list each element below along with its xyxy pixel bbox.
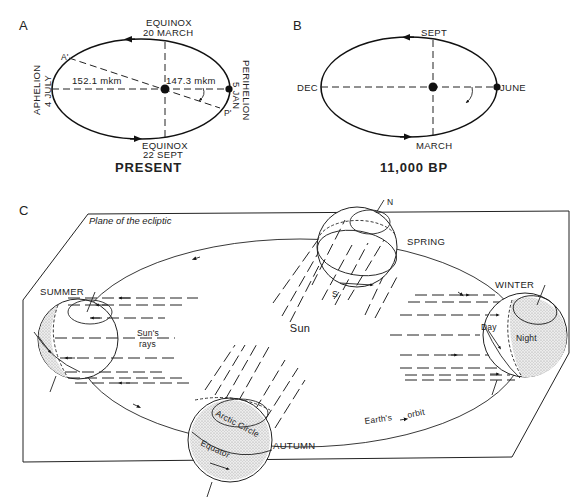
suns-rays-label-2: rays xyxy=(139,339,156,349)
panel-a-letter: A xyxy=(19,18,28,33)
equinox-sept-label-2: 22 SEPT xyxy=(143,149,183,160)
north-pole-label: N xyxy=(387,197,393,207)
equinox-march-label-2: 20 MARCH xyxy=(143,27,193,38)
aphelion-label-1: APHELION xyxy=(31,65,42,115)
earth-winter: WINTER Day Night xyxy=(390,279,567,395)
panel-c-seasons: C Plane of the ecliptic Sun Earth's orbi… xyxy=(19,197,569,497)
sun-dot-b xyxy=(429,83,438,92)
spring-label: SPRING xyxy=(407,236,445,247)
point-a-prime-label: A' xyxy=(61,52,69,62)
earth-orbit-diagram: A EQUINOX 20 MARCH EQUINOX 22 SEPT 152.1… xyxy=(0,0,587,499)
south-pole-label: S xyxy=(332,289,338,299)
sun-label: Sun xyxy=(290,322,310,334)
panel-c-letter: C xyxy=(19,203,28,218)
panel-b-caption: 11,000 BP xyxy=(380,160,448,175)
panel-b-letter: B xyxy=(293,18,302,33)
summer-label: SUMMER xyxy=(40,286,84,297)
sept-label: SEPT xyxy=(421,27,447,38)
earth-spring: N S SPRING xyxy=(273,197,445,322)
earths-orbit-label-2: orbit xyxy=(406,406,426,420)
autumn-label: AUTUMN xyxy=(273,440,315,451)
orbit-arrow-autumn xyxy=(133,404,139,407)
perihelion-distance-label: 147.3 mkm xyxy=(166,75,216,86)
earth-summer: SUMMER Sun's rays xyxy=(34,286,198,392)
precession-arrow-icon xyxy=(467,87,472,102)
day-label: Day xyxy=(481,322,497,332)
aphelion-distance-label: 152.1 mkm xyxy=(72,75,122,86)
earth-autumn: Arctic Circle Equator AUTUMN xyxy=(188,342,315,497)
perihelion-label-2: 5 JAN xyxy=(231,82,242,109)
winter-label: WINTER xyxy=(495,279,534,290)
orbit-arrow-summer xyxy=(194,257,200,259)
point-p-prime-label: P' xyxy=(224,108,232,118)
ecliptic-plane-label: Plane of the ecliptic xyxy=(89,215,172,226)
suns-rays-label-1: Sun's xyxy=(137,328,159,338)
march-label: MARCH xyxy=(416,140,452,151)
panel-b-11000bp-orbit: B SEPT MARCH DEC JUNE 11,000 BP xyxy=(293,18,526,175)
june-label: JUNE xyxy=(500,82,526,93)
panel-a-present-orbit: A EQUINOX 20 MARCH EQUINOX 22 SEPT 152.1… xyxy=(19,17,252,175)
orbit-arrow-winter xyxy=(400,419,406,420)
precession-angle-icon xyxy=(200,88,204,100)
dec-label: DEC xyxy=(297,82,318,93)
night-label: Night xyxy=(516,333,537,343)
aphelion-label-2: 4 JULY xyxy=(42,74,53,107)
panel-a-caption: PRESENT xyxy=(115,160,182,175)
earths-orbit-label-1: Earth's xyxy=(364,412,393,426)
